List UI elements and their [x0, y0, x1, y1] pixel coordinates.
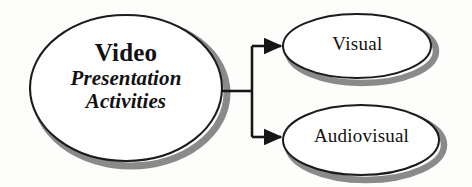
- audiovisual-node-ellipse[interactable]: [283, 105, 439, 175]
- visual-node-ellipse[interactable]: [283, 14, 431, 78]
- node-outlines: [30, 14, 439, 175]
- diagram-vector-layer: [0, 0, 472, 187]
- connector-group: [221, 46, 281, 137]
- diagram-canvas: Video Presentation Activities Visual Aud…: [0, 0, 472, 187]
- main-node-ellipse[interactable]: [30, 15, 222, 161]
